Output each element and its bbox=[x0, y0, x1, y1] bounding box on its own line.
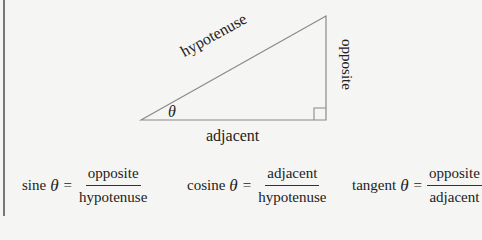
denominator: hypotenuse bbox=[77, 186, 149, 206]
adjacent-label: adjacent bbox=[206, 128, 259, 144]
opposite-label: opposite bbox=[339, 33, 354, 97]
sine-formula: sine θ = opposite hypotenuse bbox=[22, 165, 149, 206]
fraction: opposite hypotenuse bbox=[77, 165, 149, 206]
theta-symbol: θ bbox=[229, 176, 237, 196]
numerator: opposite bbox=[427, 165, 482, 186]
theta-symbol: θ bbox=[50, 176, 58, 196]
numerator: adjacent bbox=[265, 165, 319, 186]
right-angle-marker bbox=[314, 108, 326, 120]
function-name: sine bbox=[22, 177, 46, 194]
cosine-formula: cosine θ = adjacent hypotenuse bbox=[187, 165, 328, 206]
equals-sign: = bbox=[64, 177, 72, 194]
function-name: cosine bbox=[187, 177, 225, 194]
angle-label: θ bbox=[168, 104, 176, 120]
tangent-formula: tangent θ = opposite adjacent bbox=[352, 165, 482, 206]
equals-sign: = bbox=[414, 177, 422, 194]
fraction: opposite adjacent bbox=[427, 165, 482, 206]
theta-symbol: θ bbox=[400, 176, 408, 196]
denominator: adjacent bbox=[427, 186, 481, 206]
denominator: hypotenuse bbox=[256, 186, 328, 206]
fraction: adjacent hypotenuse bbox=[256, 165, 328, 206]
equals-sign: = bbox=[243, 177, 251, 194]
numerator: opposite bbox=[86, 165, 141, 186]
function-name: tangent bbox=[352, 177, 396, 194]
